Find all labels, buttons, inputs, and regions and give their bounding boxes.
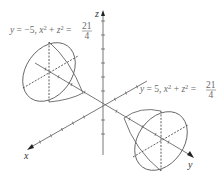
svg-text:y = −5, x2 + z2 =: y = −5, x2 + z2 = xyxy=(9,24,71,36)
svg-text:4: 4 xyxy=(209,90,214,100)
left-ellipse xyxy=(12,33,86,112)
z-arrow-icon xyxy=(101,10,105,16)
svg-text:21: 21 xyxy=(82,21,92,31)
3d-diagram: z x y xyxy=(0,0,221,176)
y-axis: y xyxy=(35,63,194,170)
svg-text:4: 4 xyxy=(85,31,90,41)
right-equation-label: y = 5, x2 + z2 = 21 4 xyxy=(139,80,216,100)
y-arrow-icon xyxy=(187,151,194,158)
svg-text:21: 21 xyxy=(206,80,216,90)
z-axis-label: z xyxy=(94,8,99,19)
svg-text:y = 5, x2 + z2 =: y = 5, x2 + z2 = xyxy=(139,83,196,95)
left-cross-section xyxy=(12,33,86,112)
y-axis-label: y xyxy=(187,159,193,170)
left-equation-label: y = −5, x2 + z2 = 21 4 xyxy=(9,21,92,41)
z-axis: z xyxy=(94,8,105,155)
x-axis-label: x xyxy=(23,150,29,161)
